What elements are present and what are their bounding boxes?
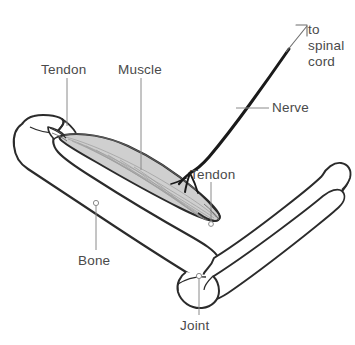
- label-to-spinal-cord-line2: spinal: [308, 38, 344, 54]
- label-tendon-distal: Tendon: [190, 167, 236, 183]
- label-to-spinal-cord: to spinal cord: [308, 22, 344, 70]
- forearm-bones: [198, 163, 350, 301]
- leader-dot-bone: [93, 200, 98, 205]
- label-tendon-proximal: Tendon: [41, 62, 87, 78]
- label-bone: Bone: [78, 253, 110, 269]
- label-to-spinal-cord-line1: to: [308, 22, 344, 38]
- arm-anatomy-illustration: [0, 0, 355, 345]
- leader-dot-joint: [196, 273, 201, 278]
- label-nerve: Nerve: [272, 100, 309, 116]
- diagram-canvas: Tendon Muscle Tendon Bone Joint Nerve to…: [0, 0, 355, 345]
- label-to-spinal-cord-line3: cord: [308, 54, 344, 70]
- label-joint: Joint: [180, 318, 210, 334]
- to-spinal-cord-arrow: [286, 25, 307, 52]
- label-muscle: Muscle: [118, 62, 162, 78]
- leader-dot-tendon-distal: [209, 222, 214, 227]
